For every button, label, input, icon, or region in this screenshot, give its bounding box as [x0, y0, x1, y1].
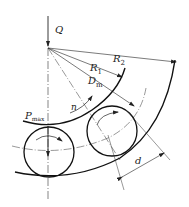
- load-label: Q: [55, 24, 63, 35]
- ball-1: [24, 127, 74, 177]
- ball-1-rotation-arrow: [36, 136, 62, 141]
- r2-label: R2: [112, 53, 125, 67]
- d-dimension-line: [122, 153, 164, 177]
- max-load-label: Pmax: [24, 110, 45, 122]
- bearing-diagram: Q R2 R1 Dm n Pmax d: [0, 0, 189, 207]
- r2-dimension-line: [48, 48, 176, 62]
- ball-diameter-label: d: [135, 155, 141, 166]
- r1-label: R1: [89, 62, 102, 76]
- dm-label: Dm: [87, 75, 103, 89]
- d-extension-line-2: [126, 110, 170, 160]
- ball-center-line: [48, 48, 120, 160]
- rotation-label: n: [71, 102, 77, 112]
- ball-2-rotation-arrow: [97, 112, 118, 125]
